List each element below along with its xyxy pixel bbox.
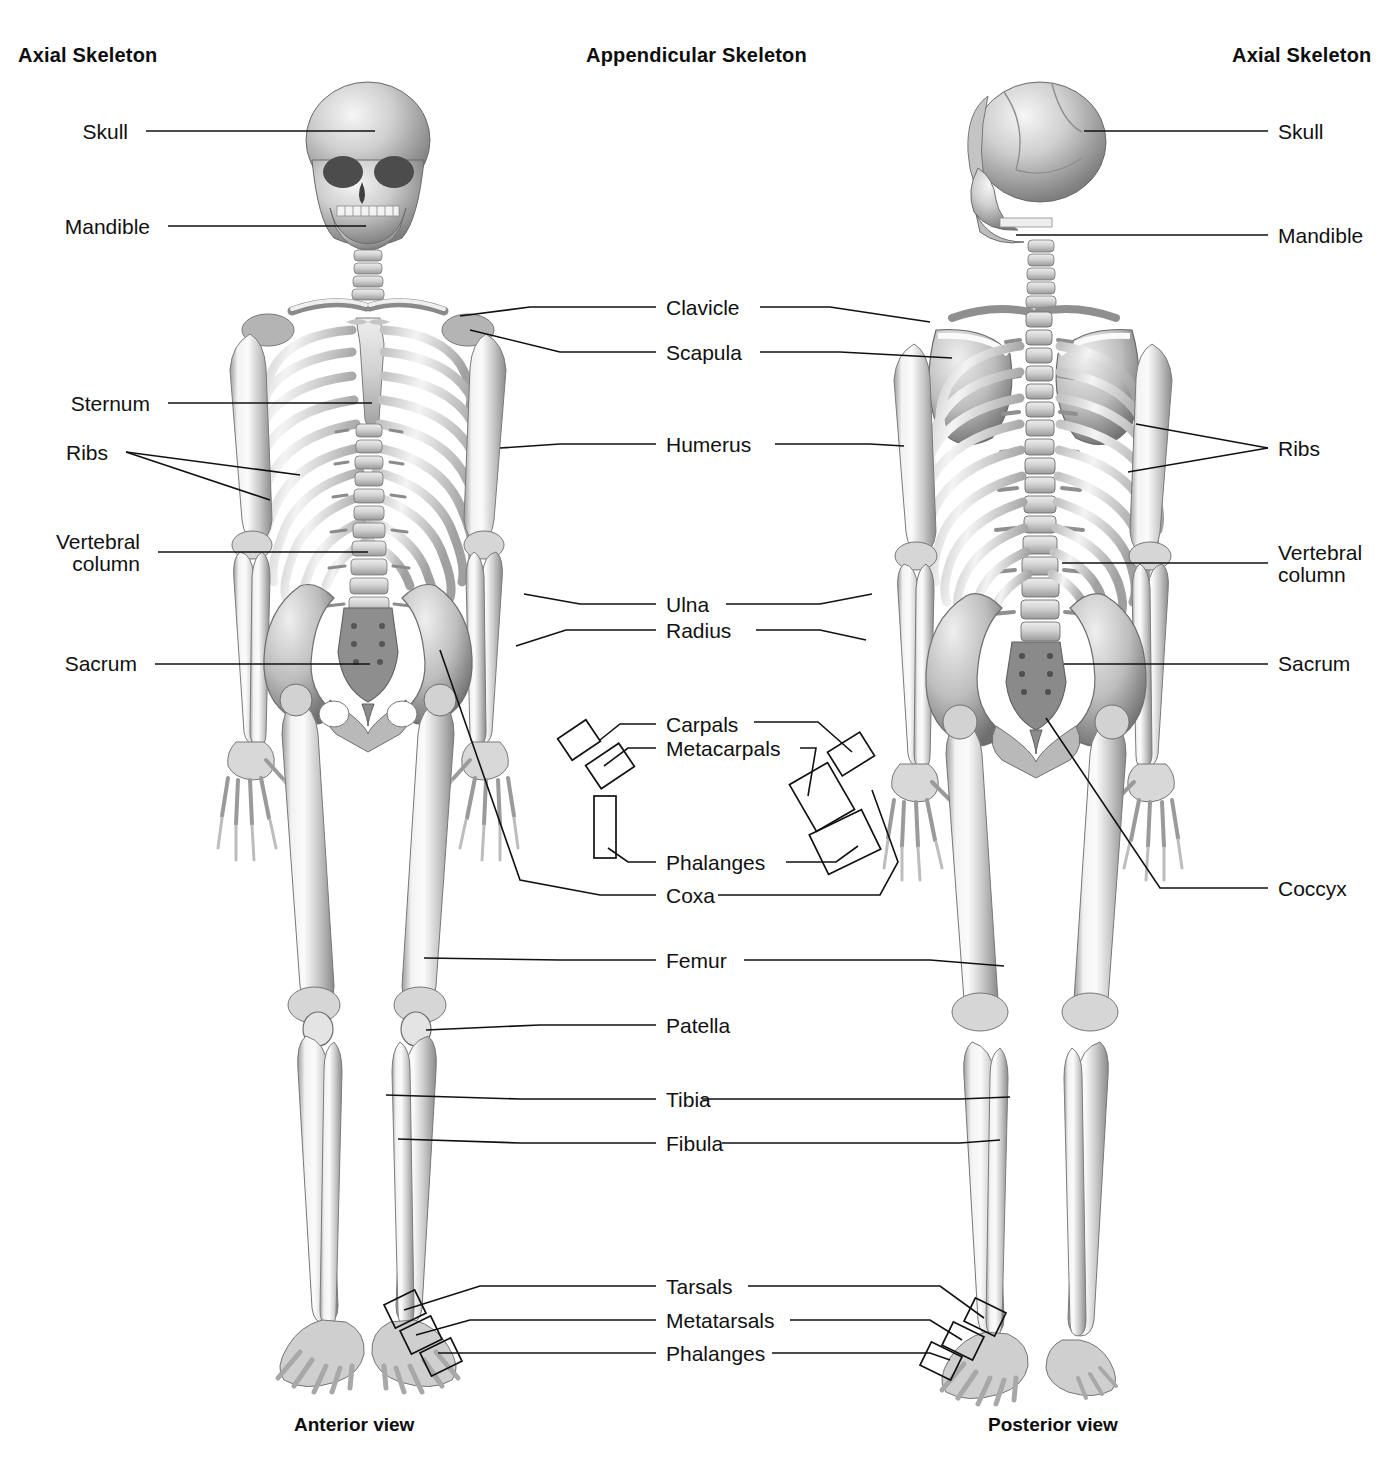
label-phalanges-hand: Phalanges (666, 851, 765, 874)
anterior-right-foot (372, 1320, 458, 1392)
label-phalanges-foot: Phalanges (666, 1342, 765, 1365)
caption-posterior-view: Posterior view (988, 1414, 1118, 1436)
label-carpals: Carpals (666, 713, 738, 736)
label-fibula: Fibula (666, 1132, 723, 1155)
label-ulna: Ulna (666, 593, 709, 616)
posterior-right-hand (1116, 764, 1182, 880)
label-sacrum-left: Sacrum (0, 652, 137, 675)
label-metatarsals: Metatarsals (666, 1309, 775, 1332)
label-vertebral-column-left: column (0, 552, 140, 575)
posterior-right-foot (1046, 1340, 1116, 1398)
heading-axial-right: Axial Skeleton (1232, 44, 1372, 67)
caption-anterior-view: Anterior view (294, 1414, 414, 1436)
label-tarsals: Tarsals (666, 1275, 733, 1298)
label-femur: Femur (666, 949, 727, 972)
posterior-skeleton-figure (884, 82, 1182, 1404)
label-vertebral-left: Vertebral (0, 530, 140, 553)
label-mandible-right: Mandible (1278, 224, 1363, 247)
label-mandible-left: Mandible (0, 215, 150, 238)
label-coxa: Coxa (666, 884, 715, 907)
posterior-left-foot (942, 1332, 1028, 1404)
label-clavicle: Clavicle (666, 296, 740, 319)
label-skull-right: Skull (1278, 120, 1324, 143)
label-scapula: Scapula (666, 341, 742, 364)
label-ribs-left: Ribs (0, 441, 108, 464)
heading-appendicular: Appendicular Skeleton (586, 44, 807, 67)
label-patella: Patella (666, 1014, 730, 1037)
anterior-left-foot (278, 1320, 364, 1392)
label-coccyx-right: Coccyx (1278, 877, 1347, 900)
anterior-skeleton-figure (218, 82, 518, 1392)
label-sacrum-right: Sacrum (1278, 652, 1350, 675)
label-radius: Radius (666, 619, 731, 642)
label-vertebral-right: Vertebral (1278, 541, 1362, 564)
label-vertebral-column-right: column (1278, 563, 1346, 586)
label-ribs-right: Ribs (1278, 437, 1320, 460)
anterior-left-hand (218, 742, 294, 860)
label-sternum-left: Sternum (0, 392, 150, 415)
anterior-right-hand (442, 742, 518, 860)
label-tibia: Tibia (666, 1088, 711, 1111)
heading-axial-left: Axial Skeleton (18, 44, 158, 67)
label-metacarpals: Metacarpals (666, 737, 780, 760)
diagram-canvas: Axial Skeleton Appendicular Skeleton Axi… (0, 0, 1394, 1475)
label-humerus: Humerus (666, 433, 751, 456)
label-skull-left: Skull (0, 120, 128, 143)
posterior-left-hand (884, 764, 950, 880)
